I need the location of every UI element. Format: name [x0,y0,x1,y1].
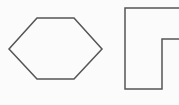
l-shape-polygon [125,8,179,89]
hexagon-shape [9,18,102,79]
diagram-canvas [0,0,179,105]
